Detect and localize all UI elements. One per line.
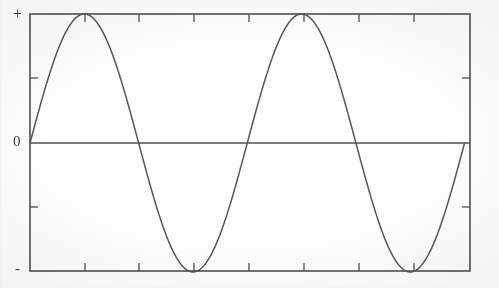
sine-wave-plot bbox=[0, 0, 499, 288]
y-axis-label-zero: 0 bbox=[13, 134, 21, 149]
x-tick-marks-top bbox=[85, 14, 414, 22]
y-axis-label-negative: - bbox=[15, 261, 20, 276]
x-tick-marks-bottom bbox=[85, 263, 414, 271]
y-axis-label-positive: + bbox=[13, 6, 22, 22]
figure-container: + 0 - bbox=[0, 0, 499, 288]
